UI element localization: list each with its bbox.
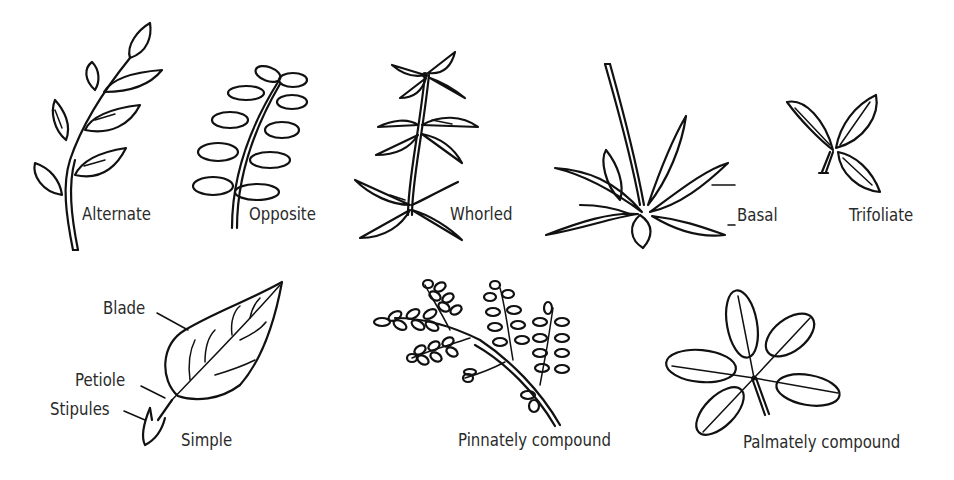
label-pinnately-compound: Pinnately compound (458, 432, 611, 449)
label-trifoliate: Trifoliate (849, 207, 913, 224)
basal-illustration (546, 64, 735, 248)
label-simple: Simple (181, 432, 232, 449)
label-palmately-compound: Palmately compound (743, 434, 900, 451)
trifoliate-illustration (787, 95, 880, 192)
pinnately-compound-illustration (374, 280, 569, 426)
label-petiole: Petiole (75, 372, 125, 389)
label-whorled: Whorled (450, 206, 512, 223)
label-basal: Basal (737, 207, 778, 224)
label-blade: Blade (103, 300, 145, 317)
label-opposite: Opposite (249, 206, 316, 223)
palmately-compound-illustration (665, 288, 842, 443)
leaf-illustrations (0, 0, 954, 480)
label-alternate: Alternate (82, 206, 151, 223)
leaf-diagram: Alternate Opposite Whorled Basal Trifoli… (0, 0, 954, 480)
label-stipules: Stipules (50, 401, 110, 418)
simple-leaf-illustration (124, 282, 282, 445)
